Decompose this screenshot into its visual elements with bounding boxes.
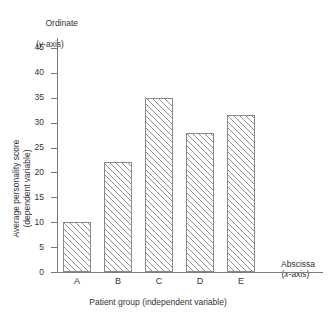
x-axis-label-b: B: [98, 276, 138, 286]
y-axis-tick: [51, 48, 58, 49]
y-axis-tick: [51, 98, 58, 99]
y-axis-tick: [51, 197, 58, 198]
y-axis-title-line1: Average personality score: [11, 114, 22, 264]
bar-series: [58, 38, 323, 272]
y-axis-tick-label: 35: [0, 92, 44, 102]
x-axis-label-d: D: [180, 276, 220, 286]
y-axis-title-line2: (dependent variable): [21, 114, 32, 264]
bar-e: [227, 115, 255, 272]
y-axis-tick-label: 40: [0, 67, 44, 77]
y-axis-tick: [51, 272, 58, 273]
y-axis-tick: [51, 123, 58, 124]
x-axis-label-e: E: [221, 276, 261, 286]
bar-c: [145, 98, 173, 272]
bar-d: [186, 133, 214, 272]
bar-b: [104, 162, 132, 272]
bar-chart: Ordinate (y-axis) Abscissa (x-axis) 0510…: [0, 0, 333, 318]
ordinate-label-line1: Ordinate: [45, 18, 78, 28]
y-axis-tick-label: 0: [0, 267, 44, 277]
x-axis-label-a: A: [57, 276, 97, 286]
y-axis-tick: [51, 148, 58, 149]
y-axis-tick-label: 45: [0, 42, 44, 52]
y-axis-tick: [51, 73, 58, 74]
y-axis-tick: [51, 172, 58, 173]
y-axis-title: Average personality score (dependent var…: [11, 114, 32, 264]
y-axis-tick: [51, 247, 58, 248]
x-axis-title: Patient group (independent variable): [0, 297, 316, 307]
x-axis-line: [57, 272, 323, 273]
bar-a: [63, 222, 91, 272]
y-axis-tick: [51, 222, 58, 223]
x-axis-label-c: C: [139, 276, 179, 286]
